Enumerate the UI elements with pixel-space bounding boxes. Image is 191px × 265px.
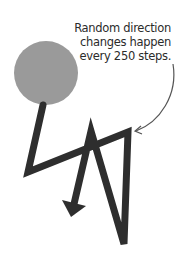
diagram: Random direction changes happen every 25… bbox=[0, 0, 191, 265]
callout-arrow bbox=[136, 64, 174, 131]
annotation-caption: Random direction changes happen every 25… bbox=[61, 21, 171, 63]
caption-line-3: every 250 steps. bbox=[61, 49, 171, 63]
walk-path bbox=[28, 105, 128, 244]
caption-line-1: Random direction bbox=[61, 21, 171, 35]
caption-line-2: changes happen bbox=[61, 35, 171, 49]
